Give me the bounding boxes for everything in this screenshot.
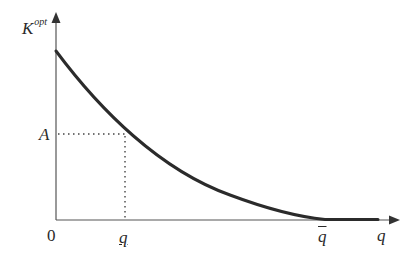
x-tick-label-q-bar: q [318, 228, 327, 245]
y-tick-label-a: A [39, 126, 49, 143]
x-axis-arrow-icon [389, 216, 400, 225]
x-axis-label: q [377, 227, 386, 244]
origin-label: 0 [47, 227, 56, 244]
y-axis-label: Kopt [22, 19, 47, 37]
kopt-curve [56, 51, 378, 220]
x-tick-label-q-lower: q [119, 229, 128, 246]
y-axis-arrow-icon [52, 12, 61, 23]
diagram-canvas [0, 0, 413, 253]
diagram-figure: Kopt A 0 q q q [0, 0, 413, 253]
